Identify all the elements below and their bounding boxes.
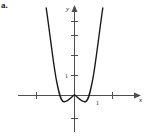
x-axis-label: x: [138, 96, 143, 104]
x-axis-one-label: 1: [96, 100, 99, 106]
graph-plot: 1 1 x y: [0, 0, 150, 139]
y-axis-label: y: [65, 5, 70, 13]
figure-container: a. 1 1 x y: [0, 0, 150, 139]
y-axis-one-label: 1: [65, 73, 68, 79]
y-axis-arrow-icon: [72, 5, 78, 12]
